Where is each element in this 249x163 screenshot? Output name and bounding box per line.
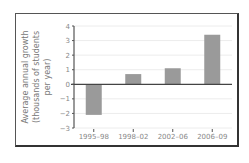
bars — [86, 35, 221, 115]
bar-2006–09 — [204, 35, 220, 85]
y-tick-label: 1 — [66, 66, 70, 74]
x-tick-label: 2002–06 — [158, 133, 189, 141]
y-ticks: −3−2−101234 — [60, 23, 74, 133]
x-ticks: 1995–981998–022002–062006–09 — [79, 129, 228, 141]
x-tick-label: 2006–09 — [197, 133, 227, 141]
y-axis-label-line: per year) — [43, 59, 52, 96]
bar-2002–06 — [165, 68, 181, 84]
y-tick-label: 4 — [66, 23, 71, 31]
bar-chart: Average annual growth(thousands of stude… — [0, 0, 249, 163]
y-tick-label: −3 — [60, 125, 70, 133]
y-tick-label: −1 — [60, 95, 70, 103]
y-tick-label: −2 — [60, 110, 70, 118]
y-axis-label-line: Average annual growth — [21, 30, 30, 123]
y-tick-label: 3 — [66, 37, 70, 45]
bar-1995–98 — [86, 84, 102, 115]
x-tick-label: 1995–98 — [79, 133, 109, 141]
x-tick-label: 1998–02 — [118, 133, 148, 141]
y-axis-label-line: (thousands of students — [32, 31, 41, 123]
y-axis-label: Average annual growth(thousands of stude… — [21, 30, 52, 123]
bar-1998–02 — [125, 74, 141, 84]
y-tick-label: 0 — [66, 81, 70, 89]
y-tick-label: 2 — [66, 52, 70, 60]
